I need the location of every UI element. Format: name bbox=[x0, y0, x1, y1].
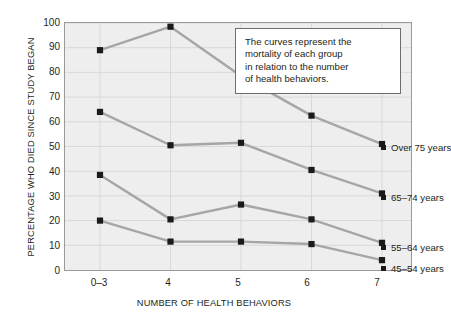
data-point-marker bbox=[308, 113, 314, 119]
annotation-note: The curves represent the mortality of ea… bbox=[235, 28, 401, 94]
data-point-marker bbox=[238, 140, 244, 146]
series-label-55-64-text: 55–64 years bbox=[391, 242, 444, 253]
series-label-65-74-text: 65–74 years bbox=[391, 192, 444, 203]
note-line-1: The curves represent the bbox=[245, 36, 392, 48]
note-line-4: of health behaviors. bbox=[245, 73, 392, 85]
y-tick-60: 60 bbox=[34, 117, 60, 127]
data-point-marker bbox=[238, 201, 244, 207]
series-label-over-75: Over 75 years bbox=[381, 142, 451, 153]
series-swatch-65-74 bbox=[381, 195, 386, 200]
data-point-marker bbox=[97, 109, 103, 115]
data-point-marker bbox=[167, 142, 173, 148]
y-tick-100: 100 bbox=[34, 18, 60, 28]
series-swatch-45-54 bbox=[381, 266, 386, 271]
data-point-marker bbox=[167, 239, 173, 245]
note-line-2: mortality of each group bbox=[245, 48, 392, 60]
y-axis-tick-labels: 100 90 80 70 60 50 40 30 20 10 0 bbox=[32, 0, 60, 322]
note-line-3: in relation to the number bbox=[245, 61, 392, 73]
x-tick-4: 4 bbox=[146, 277, 190, 288]
y-tick-80: 80 bbox=[34, 67, 60, 77]
x-tick-5: 5 bbox=[216, 277, 260, 288]
x-tick-6: 6 bbox=[285, 277, 329, 288]
x-tick-0-3: 0–3 bbox=[77, 277, 121, 288]
data-point-marker bbox=[97, 47, 103, 53]
data-point-marker bbox=[238, 239, 244, 245]
data-point-marker bbox=[97, 218, 103, 224]
data-point-marker bbox=[167, 216, 173, 222]
x-axis-title: NUMBER OF HEALTH BEHAVIORS bbox=[64, 298, 364, 308]
x-tick-7: 7 bbox=[355, 277, 399, 288]
y-tick-30: 30 bbox=[34, 192, 60, 202]
y-tick-40: 40 bbox=[34, 167, 60, 177]
y-tick-20: 20 bbox=[34, 216, 60, 226]
y-tick-0: 0 bbox=[34, 266, 60, 276]
data-point-marker bbox=[308, 167, 314, 173]
series-label-65-74: 65–74 years bbox=[381, 192, 444, 203]
y-tick-90: 90 bbox=[34, 42, 60, 52]
y-tick-70: 70 bbox=[34, 92, 60, 102]
series-label-over-75-text: Over 75 years bbox=[391, 142, 451, 153]
data-point-marker bbox=[308, 216, 314, 222]
y-tick-50: 50 bbox=[34, 142, 60, 152]
data-point-marker bbox=[308, 241, 314, 247]
series-label-55-64: 55–64 years bbox=[381, 242, 444, 253]
y-tick-10: 10 bbox=[34, 241, 60, 251]
series-label-45-54: 45–54 years bbox=[381, 263, 444, 274]
series-swatch-over-75 bbox=[381, 145, 386, 150]
series-swatch-55-64 bbox=[381, 245, 386, 250]
data-point-marker bbox=[167, 24, 173, 30]
data-point-marker bbox=[97, 172, 103, 178]
series-label-45-54-text: 45–54 years bbox=[391, 263, 444, 274]
